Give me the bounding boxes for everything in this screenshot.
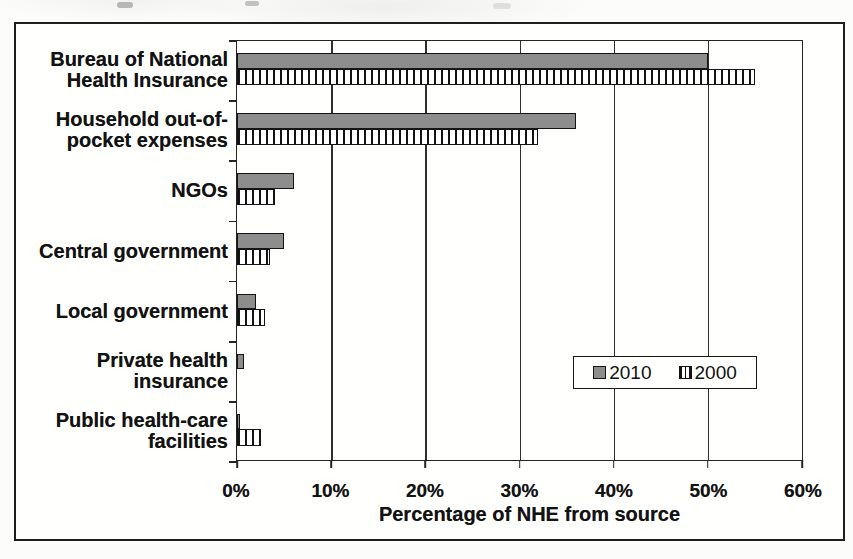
y-axis-tick (229, 40, 237, 42)
category-label: Household out-of-pocket expenses (16, 109, 228, 151)
x-tick-label-30%: 30% (500, 480, 538, 502)
bar-pair (237, 233, 802, 265)
category-row (237, 402, 802, 462)
bar-2000-household-out-of-pocket-expenses (237, 129, 538, 146)
bar-pair (237, 173, 802, 205)
y-axis-tick (229, 221, 237, 223)
category-row (237, 41, 802, 101)
bar-2000-public-health-care-facilities (237, 429, 261, 446)
legend-item-2000: 2000 (679, 362, 737, 384)
legend-label-2000: 2000 (695, 362, 737, 384)
bar-2010-central-government (237, 233, 284, 249)
scan-smudge (117, 2, 133, 8)
legend-item-2010: 2010 (593, 362, 651, 384)
y-axis-tick (229, 160, 237, 162)
category-row (237, 101, 802, 161)
bar-2010-local-government (237, 294, 256, 310)
bar-pair (237, 53, 802, 85)
category-label: NGOs (16, 180, 228, 201)
x-axis-title: Percentage of NHE from source (246, 503, 813, 526)
y-axis-category-labels: Bureau of NationalHealth InsuranceHouseh… (16, 40, 228, 461)
legend-swatch-2000 (679, 366, 692, 379)
bar-rows (237, 41, 802, 460)
legend: 2010 2000 (573, 356, 757, 389)
legend-swatch-2010 (593, 366, 606, 379)
plot-area: 2010 2000 (236, 40, 803, 461)
bar-pair (237, 294, 802, 326)
bar-2000-central-government (237, 249, 270, 266)
x-tick-label-20%: 20% (406, 480, 444, 502)
y-axis-tick (229, 341, 237, 343)
bar-2010-bureau-of-national-health-insurance (237, 53, 708, 69)
bar-pair (237, 414, 802, 446)
x-axis-tick-labels: 0%10%20%30%40%50%60% (236, 480, 803, 504)
x-tick-label-50%: 50% (689, 480, 727, 502)
bar-2000-ngos (237, 189, 275, 206)
category-row (237, 161, 802, 221)
category-label: Central government (16, 240, 228, 261)
bar-2010-ngos (237, 173, 294, 189)
bar-2000-bureau-of-national-health-insurance (237, 69, 755, 86)
category-row (237, 221, 802, 281)
scanned-page: { "chart_data": { "type": "bar", "orient… (0, 0, 853, 559)
category-label: Local government (16, 300, 228, 321)
x-tick-label-10%: 10% (311, 480, 349, 502)
x-tick-label-60%: 60% (784, 480, 822, 502)
x-tick-label-0%: 0% (222, 480, 249, 502)
x-tick-label-40%: 40% (595, 480, 633, 502)
bar-2000-local-government (237, 309, 265, 326)
bar-2010-private-health-insurance (237, 354, 244, 370)
category-row (237, 282, 802, 342)
bar-pair (237, 113, 802, 145)
category-label: Private healthinsurance (16, 350, 228, 392)
scan-smudge (245, 1, 259, 6)
y-axis-tick (229, 100, 237, 102)
category-label: Public health-carefacilities (16, 410, 228, 452)
scan-smudge (493, 3, 511, 9)
y-axis-tick (229, 281, 237, 283)
category-label: Bureau of NationalHealth Insurance (16, 49, 228, 91)
y-axis-tick (229, 401, 237, 403)
bar-2010-household-out-of-pocket-expenses (237, 113, 576, 129)
figure-frame: Bureau of NationalHealth InsuranceHouseh… (14, 22, 845, 541)
bar-2010-public-health-care-facilities (237, 414, 240, 430)
legend-label-2010: 2010 (609, 362, 651, 384)
